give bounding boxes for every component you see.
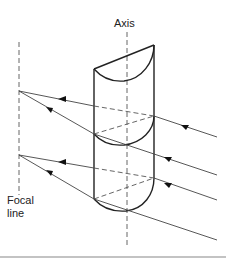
focal-line-label-2: line — [7, 207, 24, 219]
lens-top-edge — [94, 45, 154, 69]
ray-3-incoming — [154, 178, 217, 200]
arrow-icon — [58, 96, 66, 102]
upper-ray-pair — [19, 91, 217, 175]
lens-top-arc — [94, 45, 154, 81]
arrow-icon — [46, 170, 53, 176]
lens-middle-arc — [94, 116, 154, 145]
ray-3-inside — [94, 168, 154, 178]
ray-1-outside-left — [19, 91, 94, 106]
ray-2-outside-left — [19, 91, 94, 134]
lens-bottom-arc — [94, 178, 154, 211]
ray-2-incoming — [94, 134, 217, 175]
arrow-icon — [58, 159, 66, 165]
ray-1-inside — [94, 106, 154, 116]
arrow-icon — [164, 183, 172, 188]
cylindrical-lens — [94, 45, 154, 211]
arrow-icon — [46, 107, 53, 113]
ray-4-incoming — [94, 199, 217, 240]
lower-ray-pair — [19, 155, 217, 240]
focal-line-label-1: Focal — [7, 194, 34, 206]
ray-1-back-dash — [94, 116, 154, 134]
ray-3-back-dash — [94, 178, 154, 199]
axis-label: Axis — [114, 17, 135, 29]
cylindrical-lens-diagram: Axis Focal line — [0, 0, 226, 262]
